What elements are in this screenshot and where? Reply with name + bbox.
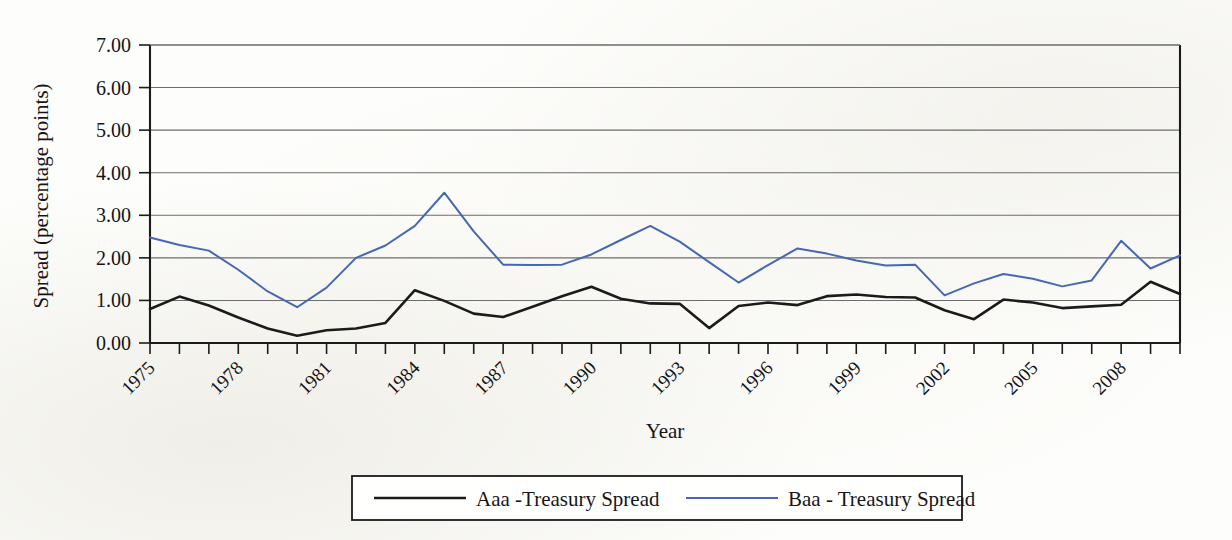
x-tick-label: 2008 xyxy=(1088,357,1130,399)
y-tick-label: 6.00 xyxy=(96,77,131,99)
x-tick-label: 1984 xyxy=(382,357,424,399)
axis-lines-group xyxy=(150,45,1180,343)
y-tick-label: 7.00 xyxy=(96,34,131,56)
x-tick-label: 1996 xyxy=(735,357,777,399)
x-tick-label: 1987 xyxy=(470,357,512,399)
x-tick-labels-group: 1975197819811984198719901993199619992002… xyxy=(117,357,1130,399)
x-tick-label: 1978 xyxy=(205,357,247,399)
x-tick-label: 1999 xyxy=(823,357,865,399)
y-tick-labels-group: 0.001.002.003.004.005.006.007.00 xyxy=(96,34,131,354)
y-tick-label: 0.00 xyxy=(96,332,131,354)
y-axis-title: Spread (percentage points) xyxy=(29,83,53,308)
x-tick-label: 2002 xyxy=(912,357,954,399)
spread-line-chart: Spread (percentage points) 0.001.002.003… xyxy=(0,0,1232,540)
legend-label-baa: Baa - Treasury Spread xyxy=(788,487,976,511)
x-axis-title: Year xyxy=(646,419,685,443)
x-tick-label: 1975 xyxy=(117,357,159,399)
y-tick-label: 3.00 xyxy=(96,204,131,226)
x-tick-marks-group xyxy=(150,343,1180,354)
series-line-baa xyxy=(150,193,1180,308)
x-tick-label: 2005 xyxy=(1000,357,1042,399)
y-tick-label: 1.00 xyxy=(96,289,131,311)
chart-page: Spread (percentage points) 0.001.002.003… xyxy=(0,0,1232,540)
y-tick-label: 2.00 xyxy=(96,247,131,269)
chart-legend: Aaa -Treasury SpreadBaa - Treasury Sprea… xyxy=(352,476,976,520)
x-tick-label: 1993 xyxy=(647,357,689,399)
gridlines-group xyxy=(139,45,1180,343)
x-tick-label: 1981 xyxy=(294,357,336,399)
series-group xyxy=(150,193,1180,336)
y-tick-label: 4.00 xyxy=(96,162,131,184)
y-tick-label: 5.00 xyxy=(96,119,131,141)
x-tick-label: 1990 xyxy=(559,357,601,399)
series-line-aaa xyxy=(150,282,1180,336)
legend-label-aaa: Aaa -Treasury Spread xyxy=(476,487,660,511)
